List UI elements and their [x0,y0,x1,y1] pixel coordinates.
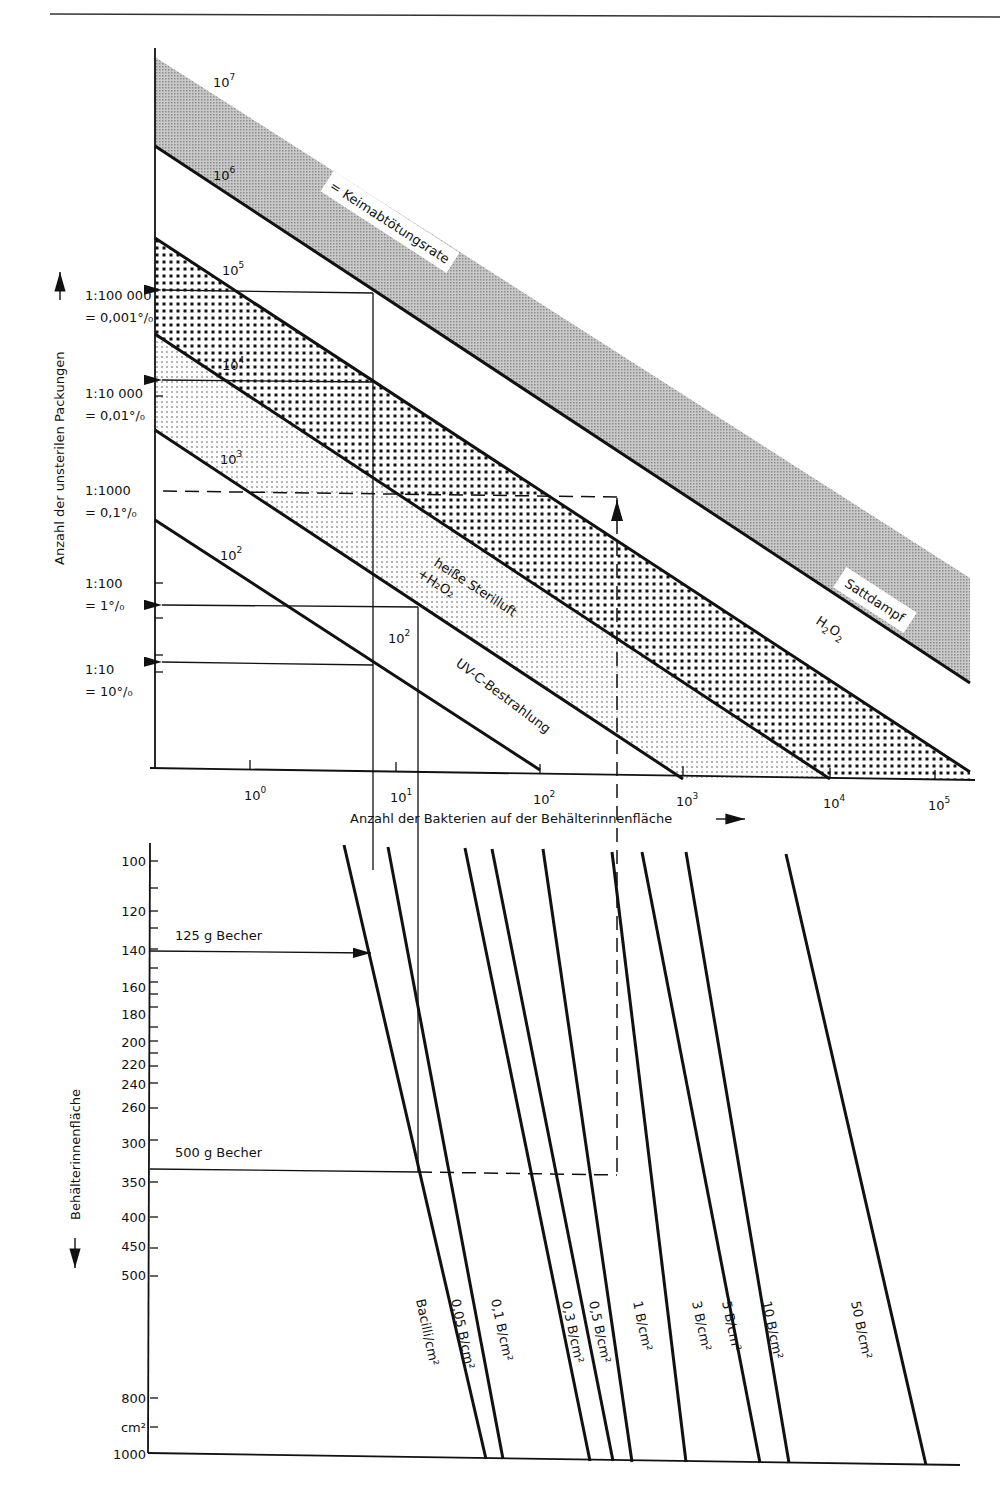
svg-text:10 B/cm²: 10 B/cm² [759,1300,786,1361]
svg-text:104: 104 [823,793,846,811]
bottom-y-axis [148,843,150,1453]
line-005 [388,847,503,1459]
bottom-y-tick-labels: 100 120 140 160 180 200 220 240 260 300 … [113,854,146,1462]
svg-text:800: 800 [121,1391,146,1406]
line-50 [786,854,926,1465]
guide-125g-horizontal [150,951,371,953]
h2o2-label: H2O2 [812,613,848,645]
density-labels: Bacilli/cm² 0,05 B/cm² 0,1 B/cm² 0,3 B/c… [413,1298,875,1371]
svg-text:1:100: 1:100 [85,576,122,591]
svg-text:260: 260 [121,1100,146,1115]
svg-text:300: 300 [121,1136,146,1151]
svg-text:1:10: 1:10 [85,662,114,677]
bottom-x-axis [148,1453,960,1465]
svg-text:107: 107 [213,72,235,90]
svg-text:= 10°/₀: = 10°/₀ [85,684,133,699]
top-y-tick-labels: 1:100 000 = 0,001°/₀ 1:10 000 = 0,01°/₀ … [85,288,153,699]
svg-text:450: 450 [121,1239,146,1254]
label-125g-becher: 125 g Becher [175,928,263,943]
bottom-y-axis-title: Behälterinnenfläche [68,1089,83,1220]
svg-text:1:1000: 1:1000 [85,483,131,498]
box-label-10e2: 102 [388,628,410,646]
top-x-axis-title: Anzahl der Bakterien auf der Behälterinn… [350,811,672,826]
svg-text:5 B/cm²: 5 B/cm² [719,1300,744,1353]
svg-text:= 0,001°/₀: = 0,001°/₀ [85,310,153,325]
svg-text:500: 500 [121,1268,146,1283]
svg-text:400: 400 [121,1210,146,1225]
line-1 [612,852,686,1462]
svg-text:100: 100 [244,785,267,803]
guide-500g-horizontal [150,1169,418,1172]
svg-text:= 0,1°/₀: = 0,1°/₀ [85,505,137,520]
svg-text:101: 101 [390,787,412,805]
svg-text:= 1°/₀: = 1°/₀ [85,598,124,613]
svg-text:103: 103 [676,791,698,809]
nomogram-figure: = Keimabtötungsrate Sattdampf 100 101 10… [0,0,1007,1502]
svg-text:= 0,01°/₀: = 0,01°/₀ [85,408,145,423]
svg-text:180: 180 [121,1007,146,1022]
svg-text:3 B/cm²: 3 B/cm² [689,1300,714,1353]
svg-text:105: 105 [222,260,244,278]
svg-text:140: 140 [121,943,146,958]
line-01 [465,848,590,1461]
line-03 [492,849,613,1461]
label-500g-becher: 500 g Becher [175,1145,263,1160]
svg-text:H2O2: H2O2 [812,613,848,645]
top-x-tick-labels: 100 101 102 103 104 105 [244,785,950,813]
svg-text:1:100 000: 1:100 000 [85,288,151,303]
svg-text:cm²: cm² [121,1420,146,1435]
svg-text:200: 200 [121,1035,146,1050]
top-y-ticks [155,396,163,672]
bottom-y-ticks [150,861,158,1427]
svg-text:1 B/cm²: 1 B/cm² [630,1300,655,1353]
svg-text:0,1 B/cm²: 0,1 B/cm² [488,1298,516,1363]
svg-text:160: 160 [121,980,146,995]
svg-text:105: 105 [928,795,950,813]
header-rule [50,14,1000,17]
guide-arrow-10pct [162,662,373,665]
svg-text:220: 220 [121,1057,146,1072]
top-chart: = Keimabtötungsrate Sattdampf 100 101 10… [52,48,975,1175]
svg-text:Bacilli/cm²: Bacilli/cm² [413,1298,442,1368]
bottom-chart: 100 120 140 160 180 200 220 240 260 300 … [68,843,960,1465]
svg-text:50 B/cm²: 50 B/cm² [848,1300,875,1361]
svg-text:120: 120 [121,904,146,919]
svg-text:1000: 1000 [113,1447,146,1462]
line-05 [543,849,632,1462]
svg-text:240: 240 [121,1077,146,1092]
svg-text:1:10 000: 1:10 000 [85,386,143,401]
svg-text:0,05 B/cm²: 0,05 B/cm² [448,1298,478,1371]
line-10e4 [155,334,830,779]
svg-text:100: 100 [121,854,146,869]
top-y-axis-title: Anzahl der unsterilen Packungen [52,352,67,565]
svg-text:102: 102 [533,789,555,807]
svg-text:350: 350 [121,1175,146,1190]
svg-text:102: 102 [220,545,242,563]
density-lines [344,845,926,1465]
